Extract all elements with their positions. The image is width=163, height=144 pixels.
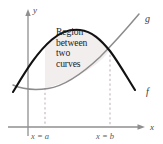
y-axis-label: y: [32, 5, 37, 15]
region-caption-line-4: curves: [56, 59, 108, 70]
region-caption: Region between two curves: [56, 27, 108, 69]
figure-region-between-two-curves: y x g f x = a x = b Region between two c…: [0, 0, 163, 144]
curve-label-f: f: [146, 86, 150, 97]
curve-label-g: g: [145, 13, 150, 24]
region-caption-line-1: Region: [56, 27, 108, 38]
y-axis-arrow-icon: [25, 9, 30, 16]
tick-label-x-equals-b: x = b: [95, 131, 114, 141]
x-axis-arrow-icon: [138, 124, 146, 130]
tick-label-x-equals-a: x = a: [30, 131, 49, 141]
x-axis-label: x: [149, 122, 154, 132]
figure-canvas: y x g f x = a x = b: [0, 0, 163, 144]
